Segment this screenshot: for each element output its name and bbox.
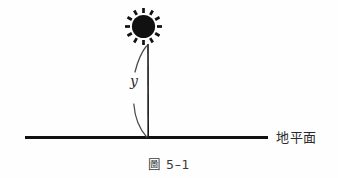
sun-core-icon [132, 15, 155, 38]
height-variable-label: y [130, 74, 138, 88]
height-brace-upper-arc [135, 46, 147, 72]
figure-container: y 地平面 圖 5–1 [0, 0, 338, 178]
ground-plane-label: 地平面 [276, 131, 317, 144]
height-brace-lower-arc [134, 104, 147, 137]
figure-drawing-canvas [0, 0, 338, 178]
figure-caption: 圖 5–1 [0, 154, 338, 173]
